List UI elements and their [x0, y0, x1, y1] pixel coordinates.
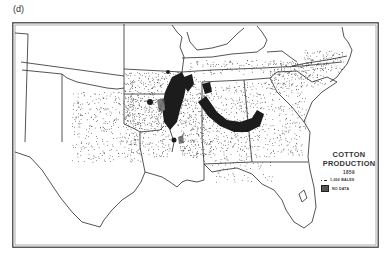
legend-title-line2: PRODUCTION: [318, 159, 380, 168]
inner-frame-border: [15, 25, 376, 245]
cotton-map: [12, 22, 379, 248]
legend-no-data-label: NO DATA: [332, 187, 349, 191]
legend-item-dot: 1,000 BALES: [318, 178, 380, 182]
legend-dot-label: 1,000 BALES: [330, 178, 354, 182]
dot-symbol-icon: [321, 179, 327, 182]
legend-title-line1: COTTON: [318, 150, 380, 159]
map-legend: COTTON PRODUCTION 1859 1,000 BALES NO DA…: [318, 150, 380, 192]
state-boundaries: [15, 24, 352, 228]
legend-item-no-data: NO DATA: [318, 185, 380, 192]
map-frame: [12, 22, 379, 248]
panel-label: (d): [13, 4, 24, 14]
no-data-swatch-icon: [321, 185, 329, 192]
legend-year: 1859: [318, 170, 380, 175]
